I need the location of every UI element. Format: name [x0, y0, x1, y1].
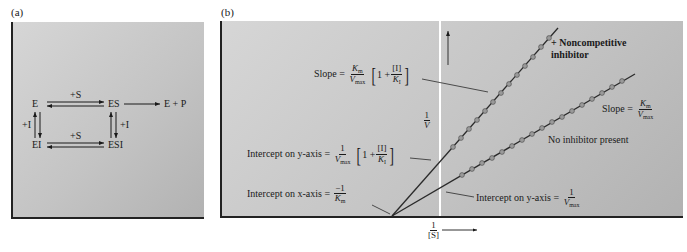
no-inhibitor-label: No inhibitor present — [548, 135, 629, 145]
sub-m: m — [646, 103, 651, 109]
num-1: 1 — [568, 188, 575, 198]
one-plus: 1 + — [377, 70, 390, 80]
inhibited-yint-prefix: Intercept on y-axis = — [247, 148, 330, 159]
one-plus: 1 + — [362, 150, 375, 160]
uninhibited-slope-prefix: Slope = — [602, 103, 633, 114]
inhibitor-line-label-2: inhibitor — [551, 50, 589, 60]
sub-max: max — [643, 114, 653, 120]
uninhibited-yint-prefix: Intercept on y-axis = — [476, 192, 559, 203]
sub-I: I — [399, 79, 401, 85]
annotation-inhibited-slope: Slope = Km Vmax [ 1 + [I] KI ] — [314, 64, 411, 86]
inhibited-slope-prefix: Slope = — [314, 68, 345, 79]
y-label-den: V — [423, 121, 431, 131]
sub-max: max — [569, 202, 579, 208]
sub-max: max — [355, 79, 365, 85]
y-axis-label: 1 V — [422, 111, 432, 131]
annotation-uninhibited-y-intercept: Intercept on y-axis = 1 Vmax — [476, 188, 581, 209]
xint-prefix: Intercept on x-axis = — [247, 188, 330, 199]
i-over-ki: [I] KI — [391, 64, 402, 85]
inhibitor-line-label-1: + Noncompetitive — [551, 38, 626, 48]
num-1: 1 — [339, 144, 346, 154]
annotation-uninhibited-slope: Slope = Km Vmax — [602, 99, 655, 121]
sub-m: m — [341, 198, 346, 204]
annotation-x-intercept: Intercept on x-axis = −1 Km — [247, 184, 347, 205]
sub-I: I — [384, 159, 386, 165]
sub-m: m — [358, 68, 363, 74]
sub-max: max — [340, 159, 350, 165]
km-over-vmax: Km Vmax — [348, 64, 366, 86]
x-axis-label: 1 [S] — [426, 221, 441, 241]
x-label-den: [S] — [427, 231, 440, 241]
annotation-inhibited-y-intercept: Intercept on y-axis = 1 Vmax [ 1 + [I] K… — [247, 144, 396, 166]
bracket-term: [ 1 + [I] KI ] — [370, 64, 411, 86]
